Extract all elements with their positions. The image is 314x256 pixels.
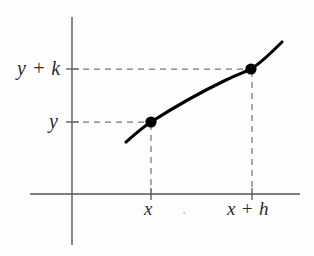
tick-marks-group	[66, 69, 252, 200]
figure-canvas: y + k y x x + h ,	[0, 0, 314, 256]
x-axis-label-left: x	[144, 199, 152, 218]
y-axis-label-lower: y	[49, 111, 58, 131]
point-q	[245, 63, 256, 74]
stray-comma-artifact: ,	[183, 206, 185, 215]
point-p	[145, 116, 156, 127]
guide-lines-group	[72, 69, 252, 193]
y-axis-label-upper: y + k	[17, 58, 61, 78]
x-axis-label-right: x + h	[227, 199, 269, 218]
